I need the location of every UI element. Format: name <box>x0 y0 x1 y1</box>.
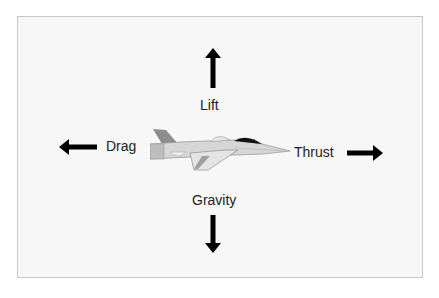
gravity-label: Gravity <box>192 192 236 208</box>
drag-label: Drag <box>106 138 136 154</box>
thrust-arrow-icon <box>347 145 383 161</box>
lift-label: Lift <box>200 97 219 113</box>
gravity-arrow-icon <box>205 215 221 253</box>
lift-arrow-icon <box>205 48 221 88</box>
fighter-jet-icon <box>150 128 292 172</box>
drag-arrow-icon <box>59 139 97 155</box>
thrust-label: Thrust <box>294 144 334 160</box>
